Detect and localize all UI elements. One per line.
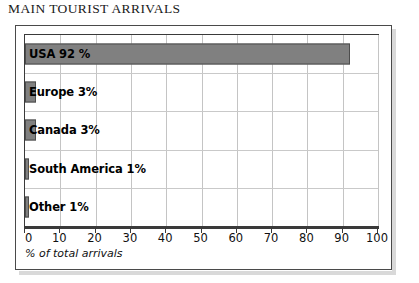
- bar-row: Other 1%: [25, 188, 378, 226]
- figure-box: USA 92 %Europe 3%Canada 3%South America …: [15, 25, 392, 270]
- x-tick-label: 10: [52, 231, 67, 245]
- bar-row: USA 92 %: [25, 35, 378, 73]
- x-tick-label: 0: [25, 231, 32, 245]
- page-title: MAIN TOURIST ARRIVALS: [8, 1, 180, 17]
- x-tick-label: 90: [334, 231, 349, 245]
- bar-label-europe: Europe 3%: [29, 85, 97, 99]
- x-tick-label: 70: [264, 231, 279, 245]
- gridline-vertical: [378, 35, 379, 226]
- x-tick-label: 50: [193, 231, 208, 245]
- x-tick-label: 80: [299, 231, 314, 245]
- figure-shadow-right: [392, 29, 396, 271]
- plot-area: USA 92 %Europe 3%Canada 3%South America …: [25, 35, 378, 226]
- bar-label-usa: USA 92 %: [29, 47, 90, 61]
- bar-row: Europe 3%: [25, 73, 378, 111]
- plot-frame: USA 92 %Europe 3%Canada 3%South America …: [24, 34, 379, 227]
- x-tick-label: 30: [123, 231, 138, 245]
- x-tick-label: 100: [366, 231, 388, 245]
- x-axis-caption: % of total arrivals: [25, 247, 123, 260]
- x-tick-label: 20: [87, 231, 102, 245]
- x-tick-label: 60: [228, 231, 243, 245]
- bar-label-canada: Canada 3%: [29, 123, 100, 137]
- x-axis-line: [24, 227, 379, 229]
- x-tick-label: 40: [158, 231, 173, 245]
- bar-row: South America 1%: [25, 150, 378, 188]
- bar-label-other: Other 1%: [29, 200, 89, 214]
- bar-row: Canada 3%: [25, 111, 378, 149]
- figure-shadow-bottom: [19, 271, 396, 275]
- bar-label-south-america: South America 1%: [29, 162, 146, 176]
